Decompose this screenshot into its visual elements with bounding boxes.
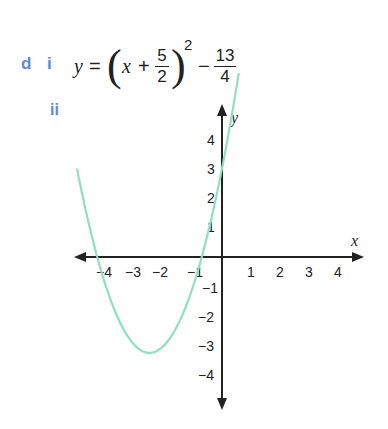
y-axis-up-arrow-icon: [217, 104, 227, 116]
x-axis-label: x: [350, 232, 358, 249]
y-tick: 4: [207, 132, 215, 148]
y-axis-down-arrow-icon: [217, 398, 227, 410]
y-tick: −4: [198, 367, 214, 383]
y-tick: 3: [207, 161, 215, 177]
x-tick: 4: [334, 264, 342, 280]
parabola-curve: [77, 73, 239, 353]
x-tick: 1: [247, 264, 255, 280]
x-tick: 2: [276, 264, 284, 280]
x-axis-right-arrow-icon: [352, 252, 364, 262]
x-tick: −2: [152, 264, 168, 280]
y-tick: −1: [202, 280, 218, 296]
x-axis-left-arrow-icon: [74, 252, 86, 262]
x-tick: 3: [305, 264, 313, 280]
y-tick: −3: [198, 338, 214, 354]
y-tick: −2: [198, 309, 214, 325]
x-tick: −3: [125, 264, 141, 280]
graph: x y −4 −3 −2 −1 1 2 3 4 4 3 2 1 −1 −2 −3…: [0, 0, 388, 429]
